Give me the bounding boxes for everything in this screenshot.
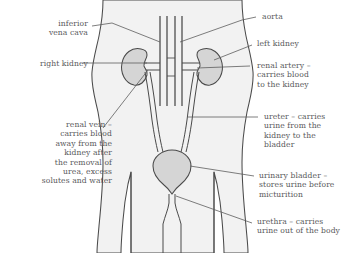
label-renal-artery: renal artery – carries blood to the kidn… [257, 61, 343, 89]
label-urethra: urethra – carries urine out of the body [257, 217, 345, 236]
label-aorta: aorta [262, 12, 342, 21]
label-right-kidney: right kidney [8, 59, 88, 68]
label-renal-vein: renal vein – carries blood away from the… [2, 120, 112, 186]
label-urinary-bladder: urinary bladder – stores urine before mi… [259, 171, 345, 199]
label-inferior-vena-cava: inferior vena cava [12, 19, 88, 38]
figure-caption [2, 245, 182, 253]
label-ureter: ureter – carries urine from the kidney t… [264, 112, 345, 150]
label-left-kidney: left kidney [257, 39, 341, 48]
